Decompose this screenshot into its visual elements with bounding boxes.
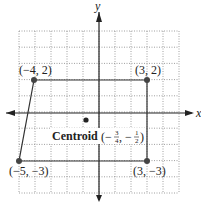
centroid-close: ) xyxy=(140,130,144,144)
vertex-label: (3, −3) xyxy=(133,164,166,178)
x-axis-label: x xyxy=(195,106,201,120)
centroid-label: Centroid xyxy=(52,129,98,143)
centroid-open: (− xyxy=(101,130,112,144)
vertex-label: (3, 2) xyxy=(135,63,161,77)
y-axis-up-arrow-icon xyxy=(96,12,102,22)
vertex-point xyxy=(31,77,37,83)
y-axis-down-arrow-icon xyxy=(96,195,102,202)
vertex-label: (−4, 2) xyxy=(19,63,52,77)
centroid-sep: , − xyxy=(119,130,132,144)
centroid-y-den: 2 xyxy=(135,137,139,145)
y-axis-label: y xyxy=(94,0,101,13)
x-axis-left-arrow-icon xyxy=(6,110,15,116)
centroid-diagram: x y (−4, 2) (3, 2) (3, −3) (−5, −3) Cent… xyxy=(0,0,201,202)
centroid-point xyxy=(83,117,88,122)
vertex-point xyxy=(144,77,150,83)
vertex-label: (−5, −3) xyxy=(9,164,49,178)
centroid-y-num: 1 xyxy=(135,129,139,137)
x-axis-right-arrow-icon xyxy=(185,110,194,116)
coordinate-plane: x y (−4, 2) (3, 2) (3, −3) (−5, −3) Cent… xyxy=(0,0,201,202)
